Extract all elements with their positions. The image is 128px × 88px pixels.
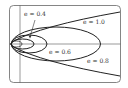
label-e06: e = 0.6 [49, 48, 71, 55]
pointer-e04 [30, 20, 35, 37]
label-e10: e = 1.0 [83, 18, 105, 25]
pointer-arrowhead-icon [29, 36, 32, 39]
label-e08: e = 0.8 [87, 57, 109, 64]
conic-eccentricity-diagram: e = 0.4 e = 1.0 e = 0.6 e = 0.8 [0, 0, 128, 88]
label-e04: e = 0.4 [24, 10, 46, 17]
